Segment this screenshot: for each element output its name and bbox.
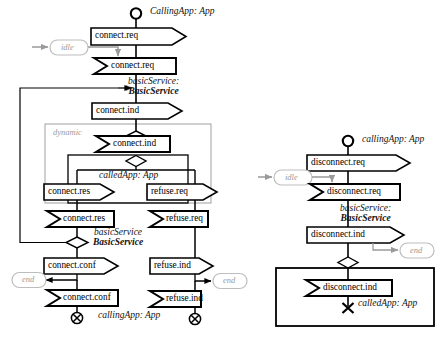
label-receive-connect-req: connect.req xyxy=(111,61,154,71)
flow-final-right xyxy=(189,313,200,324)
decision-node-2 xyxy=(126,156,146,167)
label-idle-state-left: idle xyxy=(61,43,74,52)
label-receive-disconnect-ind: disconnect.ind xyxy=(323,283,377,293)
role-callingapp-top: CallingApp: App xyxy=(150,7,214,17)
label-receive-refuse-req: refuse.req xyxy=(166,214,203,224)
label-send-refuse-ind: refuse.ind xyxy=(154,261,191,271)
label-idle-state-right: idle xyxy=(285,173,298,182)
label-receive-disconnect-req: disconnect.req xyxy=(327,187,381,197)
label-receive-refuse-ind: refuse.ind xyxy=(166,294,203,304)
flow-final-left xyxy=(71,312,82,323)
label-send-connect-conf: connect.conf xyxy=(48,261,96,271)
role-basicservice-right-l1: basicService: xyxy=(340,203,391,213)
role-basicservice-upper: basicService: BasicService xyxy=(128,77,179,97)
role-basicservice-right-l2: BasicService xyxy=(340,214,391,224)
label-end-state-right: end xyxy=(223,276,235,285)
role-basicservice-lower: basicService BasicService xyxy=(93,228,143,248)
role-callingapp-right: callingApp: App xyxy=(362,135,424,145)
decision-node-right xyxy=(338,257,358,268)
label-send-refuse-req: refuse.req xyxy=(151,187,188,197)
role-calledapp-right: calledApp: App xyxy=(358,299,417,309)
role-basicservice-lower-l1: basicService xyxy=(94,227,142,237)
diagram-canvas: connect.req connect.req connect.ind conn… xyxy=(0,0,442,339)
label-receive-connect-ind: connect.ind xyxy=(113,139,156,149)
label-partition-dynamic: dynamic xyxy=(53,128,82,137)
label-end-state-left: end xyxy=(22,275,34,284)
label-end-state-disconnect: end xyxy=(410,246,422,255)
role-basicservice-upper-l1: basicService: xyxy=(128,76,179,86)
label-send-connect-res: connect.res xyxy=(48,187,90,197)
role-calledapp-left: calledApp: App xyxy=(99,171,158,181)
label-receive-connect-conf: connect.conf xyxy=(63,293,111,303)
role-callingapp-bottom: callingApp: App xyxy=(98,311,160,321)
label-send-disconnect-ind: disconnect.ind xyxy=(311,230,365,240)
label-receive-connect-res: connect.res xyxy=(63,214,105,224)
label-send-disconnect-req: disconnect.req xyxy=(311,158,365,168)
initial-node-left xyxy=(131,8,141,18)
initial-node-right xyxy=(343,136,353,146)
role-basicservice-upper-l2: BasicService xyxy=(128,87,179,97)
decision-node-3 xyxy=(66,237,88,248)
role-basicservice-right: basicService: BasicService xyxy=(340,204,391,224)
label-send-connect-req: connect.req xyxy=(95,31,138,41)
label-send-connect-ind: connect.ind xyxy=(96,106,139,116)
role-basicservice-lower-l2: BasicService xyxy=(93,238,143,248)
